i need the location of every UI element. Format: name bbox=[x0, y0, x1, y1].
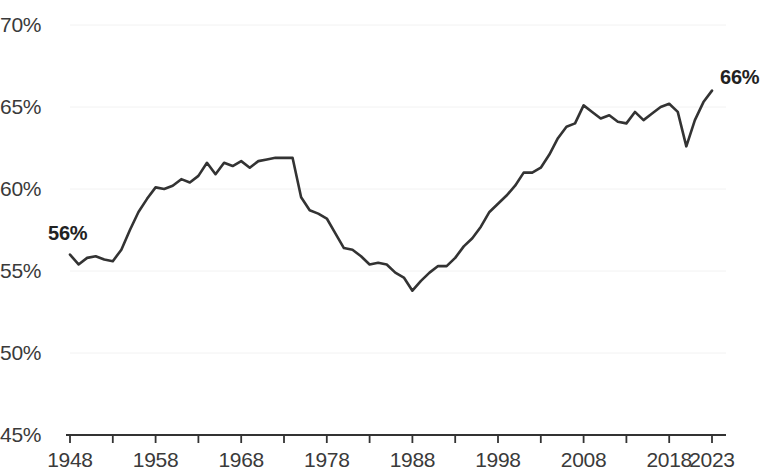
x-axis-tick-label: 1948 bbox=[47, 449, 93, 470]
y-axis-tick-label: 65% bbox=[0, 96, 56, 117]
chart-plot-area bbox=[0, 0, 762, 474]
x-axis-tick-label: 1988 bbox=[390, 449, 436, 470]
value-annotation: 66% bbox=[720, 67, 759, 87]
x-axis-tick-label: 1958 bbox=[133, 449, 179, 470]
x-axis-tick-label: 1998 bbox=[475, 449, 521, 470]
x-axis-tick-label: 1978 bbox=[304, 449, 350, 470]
gridlines bbox=[70, 25, 726, 353]
series-line-rate bbox=[70, 91, 712, 291]
y-axis-tick-label: 55% bbox=[0, 260, 56, 281]
y-axis-tick-label: 50% bbox=[0, 342, 56, 363]
x-axis-tick-label: 2018 bbox=[646, 449, 692, 470]
y-axis-tick-label: 70% bbox=[0, 14, 56, 35]
x-axis-tick-label: 2008 bbox=[561, 449, 607, 470]
y-axis-tick-label: 60% bbox=[0, 178, 56, 199]
value-annotation: 56% bbox=[48, 223, 87, 243]
y-axis-tick-label: 45% bbox=[0, 424, 56, 445]
line-chart: 70%65%60%55%50%45% 194819581968197819881… bbox=[0, 0, 762, 474]
x-axis-tick-label: 1968 bbox=[218, 449, 264, 470]
x-axis-ticks bbox=[70, 435, 712, 443]
x-axis-tick-label: 2023 bbox=[689, 449, 735, 470]
